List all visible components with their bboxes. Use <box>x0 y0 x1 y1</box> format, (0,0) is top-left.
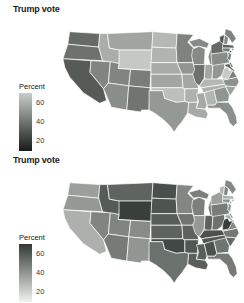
state-CO <box>129 69 151 87</box>
state-ND <box>152 32 177 48</box>
legend-body: 604020 <box>19 244 61 302</box>
state-NM <box>127 86 150 112</box>
colorbar-gradient <box>19 93 32 151</box>
panel-title: Trump vote <box>13 4 60 14</box>
legend-tick-label: 40 <box>36 118 44 126</box>
state-NJ <box>227 52 231 61</box>
legend-ticks: 604020 <box>36 93 58 151</box>
state-FL <box>207 253 237 277</box>
state-IN <box>204 216 213 231</box>
state-AR <box>185 89 199 103</box>
state-WY <box>118 201 152 221</box>
state-AR <box>185 240 199 254</box>
state-CT <box>223 199 231 203</box>
legend-tick-label: 40 <box>36 269 44 277</box>
panel-title: Trump vote <box>13 155 60 165</box>
legend-body: 604020 <box>19 93 61 151</box>
state-NE <box>151 63 182 75</box>
state-AZ <box>104 83 129 110</box>
state-NM <box>127 237 150 263</box>
election-maps-figure: Trump vote Percent 604020 Trump vote Per… <box>0 0 244 303</box>
legend: Percent 604020 <box>19 82 61 151</box>
map-panel-dark-scale: Trump vote Percent 604020 <box>0 151 244 302</box>
state-MA <box>223 44 235 48</box>
state-FL <box>207 102 237 126</box>
state-SD <box>151 198 177 213</box>
state-CO <box>129 220 151 238</box>
state-MN <box>176 185 194 214</box>
map-panel-light-scale: Trump vote Percent 604020 <box>0 0 244 151</box>
legend: Percent 604020 <box>19 233 61 302</box>
state-SD <box>151 47 177 62</box>
legend-tick-label: 60 <box>36 250 44 258</box>
legend-tick-label: 20 <box>36 289 44 297</box>
state-MT <box>107 183 153 201</box>
legend-ticks: 604020 <box>36 244 58 302</box>
state-NE <box>151 214 182 226</box>
state-MN <box>176 34 194 63</box>
state-NJ <box>227 203 231 212</box>
state-WY <box>118 50 152 70</box>
state-WI <box>192 46 206 64</box>
state-AZ <box>104 234 129 261</box>
state-ND <box>152 183 177 199</box>
state-WI <box>192 197 206 215</box>
legend-title: Percent <box>19 233 61 242</box>
colorbar-gradient <box>19 244 32 302</box>
state-MA <box>223 195 235 199</box>
state-KS <box>151 74 183 88</box>
us-choropleth-map <box>60 172 242 294</box>
legend-title: Percent <box>19 82 61 91</box>
state-CT <box>223 48 231 52</box>
legend-tick-label: 20 <box>36 138 44 146</box>
state-MT <box>107 32 153 50</box>
us-choropleth-map <box>60 21 242 143</box>
state-OR <box>63 44 103 60</box>
state-IN <box>204 65 213 80</box>
legend-tick-label: 60 <box>36 99 44 107</box>
state-KS <box>151 225 183 239</box>
state-OR <box>63 195 103 211</box>
